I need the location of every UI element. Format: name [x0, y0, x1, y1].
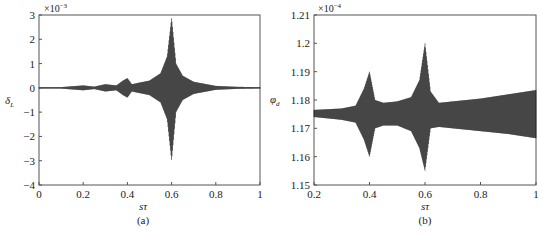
svg-text:1.19: 1.19 [291, 66, 311, 78]
svg-text:1.16: 1.16 [291, 151, 311, 163]
svg-text:1: 1 [533, 188, 539, 200]
svg-text:2: 2 [30, 33, 36, 45]
panel-a-y-label: δL [5, 94, 14, 109]
svg-text:1.15: 1.15 [291, 179, 311, 191]
panel-a-ticks: 00.20.40.60.81−4−3−2−10123 [23, 9, 262, 200]
svg-text:0.6: 0.6 [165, 188, 179, 200]
svg-text:0: 0 [36, 188, 42, 200]
svg-text:1.21: 1.21 [291, 9, 310, 21]
panel-a-x-label: sτ [139, 200, 148, 212]
svg-text:1: 1 [257, 188, 263, 200]
panel-a-trace [39, 18, 260, 160]
svg-text:0: 0 [30, 82, 36, 94]
panel-b-trace [314, 43, 536, 171]
svg-text:−3: −3 [23, 155, 35, 167]
svg-text:0.4: 0.4 [363, 188, 377, 200]
panel-b-caption: (b) [419, 214, 432, 227]
panel-a-caption: (a) [137, 214, 150, 227]
panel-b-plot: 0.20.40.60.811.151.161.171.181.191.21.21… [270, 2, 539, 227]
svg-text:1.18: 1.18 [291, 94, 311, 106]
svg-text:0.8: 0.8 [209, 188, 223, 200]
svg-text:0.4: 0.4 [121, 188, 135, 200]
svg-text:0.8: 0.8 [474, 188, 488, 200]
svg-text:0.2: 0.2 [76, 188, 90, 200]
svg-text:−1: −1 [23, 106, 35, 118]
svg-text:1: 1 [30, 58, 36, 70]
svg-text:0.6: 0.6 [418, 188, 432, 200]
panel-a-plot: 00.20.40.60.81−4−3−2−10123 ×10−3 δL sτ (… [5, 2, 263, 227]
panel-b-y-label: φd [270, 93, 280, 108]
panel-a-axes-frame [39, 15, 260, 185]
chart-figure: 00.20.40.60.81−4−3−2−10123 ×10−3 δL sτ (… [0, 0, 542, 236]
panel-b-scale-label: ×10−4 [318, 2, 342, 14]
panel-a-scale-label: ×10−3 [44, 2, 68, 14]
panel-b-x-label: sτ [421, 200, 430, 212]
svg-text:1.2: 1.2 [296, 37, 310, 49]
svg-text:−4: −4 [23, 179, 35, 191]
svg-text:−2: −2 [23, 130, 35, 142]
svg-text:1.17: 1.17 [291, 122, 311, 134]
svg-text:3: 3 [30, 9, 36, 21]
